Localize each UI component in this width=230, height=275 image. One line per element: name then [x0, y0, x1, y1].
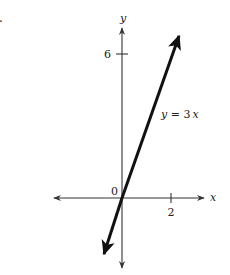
corner-mark: . [0, 11, 3, 25]
line-y-3x-negative [104, 198, 122, 254]
y-tick-label: 6 [104, 48, 111, 61]
x-tick-label: 2 [168, 206, 175, 219]
y-axis-label: y [119, 12, 127, 25]
graph-y-equals-3x: . 2 6 0 x y y = 3x [0, 0, 230, 275]
origin-label: 0 [111, 185, 118, 198]
line-label: y = 3x [160, 108, 199, 121]
x-axis-label: x [210, 191, 217, 204]
